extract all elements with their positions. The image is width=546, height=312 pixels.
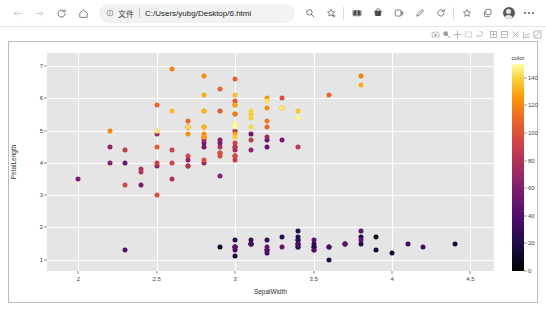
scatter-point[interactable]: [327, 257, 332, 262]
scatter-point[interactable]: [107, 160, 112, 165]
scatter-point[interactable]: [170, 147, 175, 152]
scatter-point[interactable]: [311, 248, 316, 253]
scatter-point[interactable]: [186, 154, 191, 159]
scatter-point[interactable]: [264, 99, 269, 104]
scatter-point[interactable]: [186, 118, 191, 123]
scatter-point[interactable]: [233, 238, 238, 243]
scatter-point[interactable]: [186, 131, 191, 136]
scatter-point[interactable]: [233, 244, 238, 249]
scatter-point[interactable]: [201, 92, 206, 97]
home-button[interactable]: [72, 3, 94, 23]
scatter-point[interactable]: [264, 244, 269, 249]
scatter-point[interactable]: [154, 128, 159, 133]
scatter-point[interactable]: [233, 134, 238, 139]
scatter-point[interactable]: [186, 125, 191, 130]
scatter-point[interactable]: [201, 134, 206, 139]
scatter-point[interactable]: [217, 86, 222, 91]
scatter-point[interactable]: [170, 176, 175, 181]
scatter-point[interactable]: [358, 238, 363, 243]
scatter-point[interactable]: [374, 235, 379, 240]
scatter-point[interactable]: [327, 92, 332, 97]
scatter-point[interactable]: [327, 244, 332, 249]
scatter-point[interactable]: [295, 144, 300, 149]
scatter-point[interactable]: [295, 228, 300, 233]
scatter-point[interactable]: [170, 160, 175, 165]
scatter-point[interactable]: [248, 125, 253, 130]
scatter-point[interactable]: [264, 105, 269, 110]
scatter-point[interactable]: [421, 244, 426, 249]
shopping-icon[interactable]: [367, 3, 388, 23]
scatter-point[interactable]: [280, 235, 285, 240]
scatter-point[interactable]: [452, 241, 457, 246]
scatter-point[interactable]: [280, 138, 285, 143]
scatter-point[interactable]: [248, 147, 253, 152]
scatter-point[interactable]: [139, 183, 144, 188]
scatter-point[interactable]: [295, 109, 300, 114]
scatter-point[interactable]: [123, 160, 128, 165]
pan-icon[interactable]: [452, 29, 463, 40]
scatter-point[interactable]: [264, 125, 269, 130]
scatter-point[interactable]: [201, 157, 206, 162]
scatter-point[interactable]: [186, 164, 191, 169]
split-screen-icon[interactable]: [346, 3, 367, 23]
scatter-point[interactable]: [374, 248, 379, 253]
collections-icon[interactable]: [388, 3, 409, 23]
scatter-point[interactable]: [248, 109, 253, 114]
pen-icon[interactable]: [409, 3, 430, 23]
scatter-point[interactable]: [264, 134, 269, 139]
scatter-point[interactable]: [170, 67, 175, 72]
refresh-browser-icon[interactable]: [430, 3, 451, 23]
scatter-point[interactable]: [170, 109, 175, 114]
scatter-point[interactable]: [233, 254, 238, 259]
lasso-select-icon[interactable]: [474, 29, 485, 40]
plotly-logo-icon[interactable]: [532, 29, 543, 40]
scatter-point[interactable]: [280, 96, 285, 101]
scatter-point[interactable]: [107, 128, 112, 133]
address-bar[interactable]: 文件 C:/Users/yubg/Desktop/6.html: [99, 4, 295, 23]
scatter-point[interactable]: [123, 248, 128, 253]
scatter-point[interactable]: [201, 144, 206, 149]
scatter-point[interactable]: [343, 241, 348, 246]
scatter-point[interactable]: [233, 125, 238, 130]
scatter-point[interactable]: [233, 102, 238, 107]
scatter-point[interactable]: [358, 73, 363, 78]
scatter-point[interactable]: [233, 76, 238, 81]
scatter-point[interactable]: [154, 160, 159, 165]
scatter-point[interactable]: [248, 115, 253, 120]
reset-axes-icon[interactable]: [521, 29, 532, 40]
scatter-point[interactable]: [311, 238, 316, 243]
forward-button[interactable]: [28, 3, 50, 23]
scatter-point[interactable]: [358, 228, 363, 233]
scatter-point[interactable]: [201, 125, 206, 130]
scatter-point[interactable]: [217, 244, 222, 249]
scatter-point[interactable]: [201, 109, 206, 114]
collections-box-icon[interactable]: [477, 3, 498, 23]
scatter-point[interactable]: [264, 118, 269, 123]
scatter-point[interactable]: [154, 144, 159, 149]
plot-area[interactable]: 123456722.533.544.5: [47, 53, 494, 271]
add-to-favorites-icon[interactable]: [320, 3, 341, 23]
more-menu-button[interactable]: ⋯: [519, 3, 540, 23]
scatter-point[interactable]: [405, 241, 410, 246]
box-select-icon[interactable]: [463, 29, 474, 40]
scatter-point[interactable]: [248, 241, 253, 246]
scatter-point[interactable]: [233, 112, 238, 117]
scatter-point[interactable]: [123, 183, 128, 188]
scatter-point[interactable]: [139, 170, 144, 175]
scatter-point[interactable]: [123, 147, 128, 152]
scatter-point[interactable]: [390, 251, 395, 256]
back-button[interactable]: [6, 3, 28, 23]
favorites-star-icon[interactable]: [456, 3, 477, 23]
scatter-point[interactable]: [358, 83, 363, 88]
scatter-point[interactable]: [217, 109, 222, 114]
camera-download-icon[interactable]: [430, 29, 441, 40]
scatter-point[interactable]: [264, 238, 269, 243]
scatter-point[interactable]: [233, 141, 238, 146]
scatter-point[interactable]: [154, 193, 159, 198]
scatter-point[interactable]: [233, 92, 238, 97]
scatter-point[interactable]: [233, 154, 238, 159]
scatter-point[interactable]: [154, 102, 159, 107]
reload-button[interactable]: [50, 3, 72, 23]
scatter-point[interactable]: [217, 151, 222, 156]
scatter-point[interactable]: [280, 244, 285, 249]
